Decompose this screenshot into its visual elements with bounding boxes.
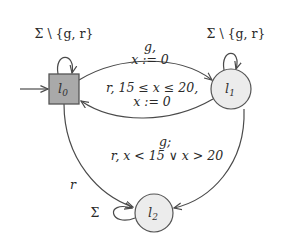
label-l2-self-loop: Σ (88, 206, 102, 219)
label-l1-self-loop: Σ \ {g, r} (200, 27, 272, 40)
label-l1-to-l2-line2: r, x < 15 ∨ x > 20 (98, 149, 236, 162)
state-l1[interactable]: l1 (211, 69, 251, 109)
edge-l1-self-loop (224, 53, 238, 70)
timed-automaton-diagram: l0 l1 l2 Σ \ {g, r} Σ \ {g, r} g, x := 0… (0, 0, 290, 239)
label-l0-self-loop: Σ \ {g, r} (28, 27, 100, 40)
label-l0-to-l2: r (66, 178, 80, 191)
label-l1-to-l0-line1: r, 15 ≤ x ≤ 20, (92, 81, 212, 94)
state-l2[interactable]: l2 (135, 194, 173, 232)
label-l1-to-l2-line1: g; (150, 135, 180, 148)
state-l0[interactable]: l0 (49, 74, 79, 104)
label-l1-to-l0-line2: x := 0 (122, 95, 182, 108)
label-l0-to-l1-line2: x := 0 (120, 53, 180, 66)
edge-l0-self-loop (58, 57, 73, 74)
edge-l2-self-loop (113, 207, 135, 221)
